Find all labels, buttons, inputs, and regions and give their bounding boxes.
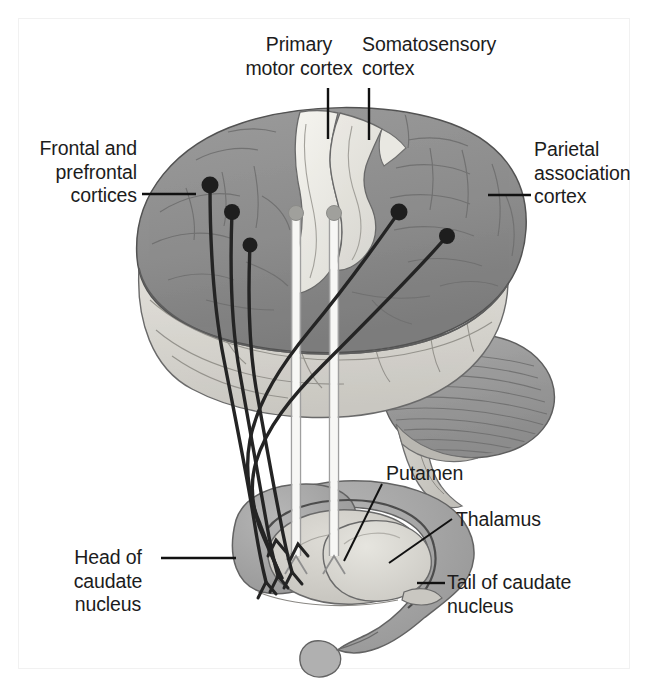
label-head-of-caudate-nucleus: Head of caudate nucleus — [52, 546, 164, 617]
label-putamen: Putamen — [386, 462, 516, 486]
label-frontal-and-prefrontal-cortices: Frontal and prefrontal cortices — [0, 137, 137, 208]
origin-dot-parietal-1 — [391, 204, 408, 221]
label-somatosensory-cortex: Somatosensory cortex — [362, 33, 532, 80]
origin-dot-frontal-3 — [243, 238, 258, 253]
origin-dot-somatosensory — [327, 206, 342, 221]
label-parietal-association-cortex: Parietal association cortex — [534, 138, 648, 209]
label-primary-motor-cortex: Primary motor cortex — [224, 33, 374, 80]
origin-dot-frontal-1 — [202, 177, 219, 194]
origin-dot-primary-motor — [289, 206, 304, 221]
anatomical-figure: Primary motor cortex Somatosensory corte… — [0, 0, 648, 687]
origin-dot-frontal-2 — [224, 204, 240, 220]
label-tail-of-caudate-nucleus: Tail of caudate nucleus — [447, 571, 642, 618]
amygdala — [300, 641, 341, 677]
label-thalamus: Thalamus — [456, 508, 586, 532]
origin-dot-parietal-2 — [439, 228, 455, 244]
